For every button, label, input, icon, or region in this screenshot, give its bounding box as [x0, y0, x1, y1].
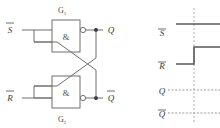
- input-sbar-label: S: [8, 25, 13, 35]
- gate-g1-label: G1: [58, 6, 67, 16]
- circuit-diagram: G1 & S Q & G2 R Q: [6, 6, 115, 125]
- gate-g2-invert-bubble: [80, 95, 85, 100]
- gate-g2-label: G2: [58, 115, 67, 125]
- gate-g2-symbol: &: [62, 88, 69, 98]
- output-qbar-label: Q: [108, 93, 115, 103]
- timing-trace-rbar: [176, 47, 220, 64]
- figure-canvas: G1 & S Q & G2 R Q: [0, 0, 220, 128]
- timing-diagram: S R Q Q: [158, 8, 220, 122]
- gate-g1-invert-bubble: [80, 27, 85, 32]
- output-q-label: Q: [108, 25, 115, 35]
- input-rbar-label: R: [6, 93, 13, 103]
- gate-g1-symbol: &: [62, 32, 69, 42]
- timing-label-q: Q: [159, 86, 166, 96]
- figure-root: G1 & S Q & G2 R Q: [0, 0, 220, 128]
